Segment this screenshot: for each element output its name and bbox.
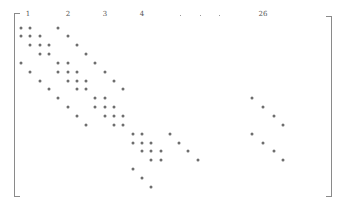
matrix-entry-dot [122,115,125,118]
matrix-entry-dot [150,150,153,153]
column-label-26: 26 [259,10,268,18]
matrix-entry-dot [57,70,60,73]
matrix-entry-dot [187,150,190,153]
matrix-entry-dot [103,70,106,73]
matrix-entry-dot [122,123,125,126]
matrix-entry-dot [272,150,275,153]
matrix-entry-dot [85,79,88,82]
matrix-entry-dot [103,115,106,118]
matrix-entry-dot [75,70,78,73]
matrix-entry-dot [94,61,97,64]
matrix-entry-dot [113,79,116,82]
matrix-entry-dot [94,106,97,109]
ellipsis-dot [180,15,181,16]
right-matrix-bracket [326,16,332,197]
matrix-entry-dot [29,44,32,47]
matrix-entry-dot [75,44,78,47]
matrix-entry-dot [38,53,41,56]
matrix-entry-dot [178,141,181,144]
matrix-entry-dot [47,53,50,56]
matrix-entry-dot [75,115,78,118]
matrix-entry-dot [20,26,23,29]
matrix-entry-dot [29,35,32,38]
matrix-entry-dot [159,150,162,153]
matrix-entry-dot [131,168,134,171]
matrix-entry-dot [29,26,32,29]
column-label-2: 2 [66,10,70,18]
matrix-entry-dot [94,97,97,100]
matrix-entry-dot [140,176,143,179]
matrix-entry-dot [113,115,116,118]
column-label-1: 1 [26,10,30,18]
column-label-4: 4 [140,10,144,18]
matrix-entry-dot [272,115,275,118]
ellipsis-dot [219,15,220,16]
matrix-entry-dot [159,159,162,162]
matrix-entry-dot [282,123,285,126]
matrix-entry-dot [57,61,60,64]
matrix-entry-dot [250,132,253,135]
matrix-entry-dot [261,106,264,109]
matrix-entry-dot [20,61,23,64]
matrix-entry-dot [150,141,153,144]
sparse-matrix-diagram: 1 2 3 4 26 [0,0,342,206]
matrix-entry-dot [131,132,134,135]
matrix-entry-dot [122,88,125,91]
matrix-entry-dot [47,44,50,47]
left-matrix-bracket [14,13,20,197]
matrix-entry-dot [103,106,106,109]
matrix-entry-dot [168,132,171,135]
matrix-entry-dot [150,159,153,162]
matrix-entry-dot [20,35,23,38]
matrix-entry-dot [66,61,69,64]
matrix-entry-dot [66,79,69,82]
matrix-entry-dot [38,79,41,82]
matrix-entry-dot [140,150,143,153]
matrix-entry-dot [47,88,50,91]
matrix-entry-dot [57,26,60,29]
matrix-entry-dot [75,79,78,82]
matrix-entry-dot [75,88,78,91]
matrix-entry-dot [140,132,143,135]
matrix-entry-dot [282,159,285,162]
matrix-entry-dot [140,141,143,144]
column-label-3: 3 [103,10,107,18]
matrix-entry-dot [113,123,116,126]
matrix-entry-dot [85,88,88,91]
matrix-entry-dot [38,35,41,38]
matrix-entry-dot [29,70,32,73]
matrix-entry-dot [131,141,134,144]
matrix-entry-dot [57,97,60,100]
matrix-entry-dot [196,159,199,162]
matrix-entry-dot [66,35,69,38]
matrix-entry-dot [85,53,88,56]
matrix-entry-dot [250,97,253,100]
matrix-entry-dot [85,123,88,126]
matrix-entry-dot [103,97,106,100]
matrix-entry-dot [113,106,116,109]
matrix-entry-dot [66,70,69,73]
matrix-entry-dot [261,141,264,144]
ellipsis-dot [200,15,201,16]
matrix-entry-dot [38,44,41,47]
matrix-entry-dot [66,106,69,109]
matrix-entry-dot [150,185,153,188]
